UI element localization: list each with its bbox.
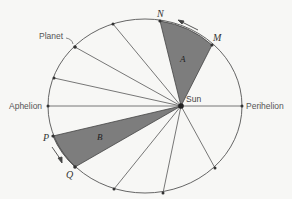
orbit-figure xyxy=(0,0,292,199)
point-p-label: P xyxy=(43,133,49,143)
sun-label: Sun xyxy=(186,95,201,104)
planet-label: Planet xyxy=(39,32,63,41)
area-b-label: B xyxy=(97,133,103,142)
point-q-label: Q xyxy=(66,170,73,180)
orbit-points xyxy=(47,19,244,194)
planet-pointer-arrow xyxy=(66,38,73,44)
aphelion-label: Aphelion xyxy=(9,102,42,111)
point-n-label: N xyxy=(157,9,164,19)
sector-b xyxy=(53,106,181,167)
point-m-label: M xyxy=(213,33,221,43)
area-a-label: A xyxy=(180,55,186,64)
perihelion-label: Perihelion xyxy=(246,102,284,111)
sun-icon xyxy=(178,103,184,109)
kepler-second-law-diagram: Planet Aphelion Perihelion Sun N M P Q A… xyxy=(0,0,292,199)
